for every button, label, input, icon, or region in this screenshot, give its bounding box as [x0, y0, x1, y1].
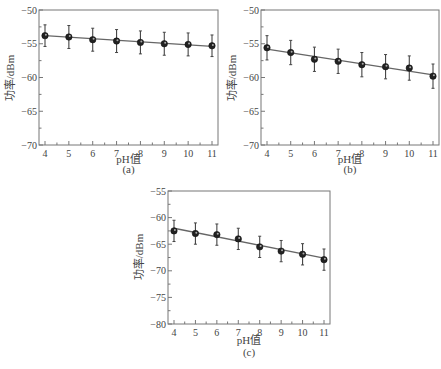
data-point-highlight [212, 44, 214, 46]
data-point-highlight [140, 41, 142, 43]
plot-frame [261, 10, 439, 145]
y-tick-label: −60 [21, 72, 37, 83]
data-point-highlight [93, 38, 95, 40]
data-point-highlight [338, 59, 340, 61]
data-point [214, 231, 220, 237]
data-point-highlight [238, 237, 240, 239]
data-point-highlight [267, 46, 269, 48]
plot-frame [39, 10, 218, 145]
data-point [235, 236, 241, 242]
x-tick-label: 11 [428, 148, 438, 159]
data-point [192, 230, 198, 236]
data-point [406, 65, 412, 71]
data-point-highlight [174, 229, 176, 231]
data-point-highlight [385, 65, 387, 67]
x-tick-label: 4 [43, 148, 48, 159]
data-point [137, 39, 143, 45]
y-tick-label: −70 [21, 140, 37, 151]
y-tick-label: −55 [243, 38, 259, 49]
plot-frame [168, 191, 330, 324]
data-point-highlight [188, 43, 190, 45]
y-tick-label: −70 [150, 265, 166, 276]
data-point [299, 251, 305, 257]
figure: −50−55−60−65−704567891011pH值功率/dBm(a)−50… [0, 0, 441, 369]
data-point-highlight [281, 249, 283, 251]
data-point-highlight [314, 57, 316, 59]
data-point [209, 43, 215, 49]
y-tick-label: −80 [150, 319, 166, 330]
x-tick-label: 6 [214, 327, 219, 338]
data-point [335, 58, 341, 64]
data-point-highlight [302, 252, 304, 254]
x-tick-label: 5 [288, 148, 293, 159]
chart-panel-b: −50−55−60−65−704567891011pH值功率/dBm(b) [225, 5, 439, 177]
data-point [90, 37, 96, 43]
y-tick-label: −70 [243, 140, 259, 151]
data-point-highlight [291, 51, 293, 53]
data-point [321, 256, 327, 262]
data-point [264, 45, 270, 51]
data-point [185, 41, 191, 47]
data-point [278, 248, 284, 254]
data-point-highlight [324, 258, 326, 260]
x-tick-label: 4 [265, 148, 270, 159]
data-point [430, 73, 436, 79]
chart-panel-c: −55−60−65−70−75−804567891011pH值功率/dBm(c) [132, 186, 330, 360]
y-axis-label: 功率/dBm [3, 54, 16, 101]
y-tick-label: −50 [21, 5, 37, 16]
y-tick-label: −65 [150, 239, 166, 250]
data-point-highlight [69, 35, 71, 37]
x-tick-label: 11 [319, 327, 329, 338]
x-tick-label: 6 [312, 148, 317, 159]
y-tick-label: −55 [21, 38, 37, 49]
data-point-highlight [164, 42, 166, 44]
data-point-highlight [362, 63, 364, 65]
data-point-highlight [260, 245, 262, 247]
data-point [171, 228, 177, 234]
data-point [42, 32, 48, 38]
y-tick-label: −60 [243, 72, 259, 83]
y-tick-label: −50 [243, 5, 259, 16]
data-point-highlight [195, 232, 197, 234]
x-tick-label: 9 [162, 148, 167, 159]
data-point [311, 56, 317, 62]
data-point-highlight [45, 34, 47, 36]
y-tick-label: −65 [21, 106, 37, 117]
data-point [113, 38, 119, 44]
data-point [359, 61, 365, 67]
y-tick-label: −65 [243, 106, 259, 117]
data-point [161, 41, 167, 47]
y-tick-label: −75 [150, 292, 166, 303]
x-tick-label: 6 [90, 148, 95, 159]
x-tick-label: 5 [193, 327, 198, 338]
data-point-highlight [433, 74, 435, 76]
y-axis-label: 功率/dBm [225, 54, 238, 101]
x-tick-label: 5 [66, 148, 71, 159]
y-tick-label: −60 [150, 212, 166, 223]
x-tick-label: 10 [183, 148, 193, 159]
panel-caption: (c) [243, 346, 256, 359]
data-point [257, 244, 263, 250]
data-point [288, 49, 294, 55]
data-point [382, 63, 388, 69]
panel-caption: (a) [122, 163, 135, 176]
x-tick-label: 10 [404, 148, 414, 159]
y-axis-label: 功率/dBm [132, 233, 145, 280]
x-tick-label: 11 [207, 148, 217, 159]
x-tick-label: 10 [298, 327, 308, 338]
x-tick-label: 4 [172, 327, 177, 338]
data-point-highlight [217, 233, 219, 235]
chart-panel-a: −50−55−60−65−704567891011pH值功率/dBm(a) [3, 5, 218, 177]
x-tick-label: 9 [383, 148, 388, 159]
data-point [66, 34, 72, 40]
data-point-highlight [409, 66, 411, 68]
x-axis-label: pH值 [237, 334, 261, 346]
data-point-highlight [116, 39, 118, 41]
panel-caption: (b) [344, 163, 357, 176]
y-tick-label: −55 [150, 186, 166, 197]
x-tick-label: 9 [279, 327, 284, 338]
